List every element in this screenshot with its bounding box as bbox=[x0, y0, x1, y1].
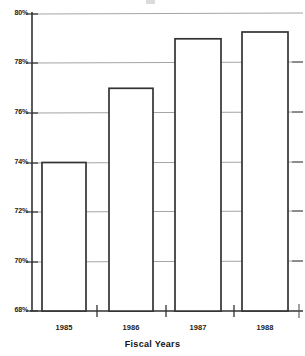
ytick-label-76: 76% bbox=[2, 108, 28, 115]
xtick-label-1988: 1988 bbox=[235, 323, 295, 332]
ytick-label-70: 70% bbox=[2, 257, 28, 264]
ytick-label-68: 68% bbox=[2, 306, 28, 313]
bar-1985 bbox=[42, 163, 86, 312]
ytick-label-80: 80% bbox=[2, 9, 28, 16]
gridline-80 bbox=[32, 13, 303, 14]
ytick-label-78: 78% bbox=[2, 58, 28, 65]
bar-chart: 80% 78% 76% 74% 72% 70% 68% 1985 1986 19… bbox=[0, 0, 305, 356]
ytick-label-72: 72% bbox=[2, 207, 28, 214]
x-axis-title: Fiscal Years bbox=[0, 339, 305, 349]
bar-1987 bbox=[175, 39, 221, 311]
xtick-label-1985: 1985 bbox=[34, 323, 94, 332]
right-axis-ticks bbox=[292, 62, 303, 318]
chart-plot-area bbox=[0, 0, 305, 356]
xtick-label-1987: 1987 bbox=[168, 323, 228, 332]
bars bbox=[42, 32, 288, 311]
bar-1986 bbox=[109, 88, 153, 311]
xtick-label-1986: 1986 bbox=[101, 323, 161, 332]
ytick-label-74: 74% bbox=[2, 158, 28, 165]
bar-1988 bbox=[242, 32, 288, 311]
